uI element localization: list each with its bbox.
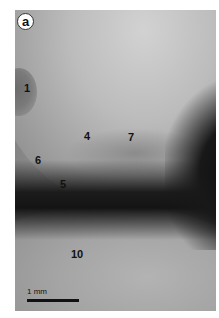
micrograph-panel: a	[15, 10, 216, 311]
structure-label-4: 4	[84, 131, 90, 142]
scale-bar-label: 1 mm	[27, 287, 47, 296]
panel-label-badge: a	[17, 13, 34, 30]
structure-label-6: 6	[35, 155, 41, 166]
structure-label-7: 7	[128, 132, 134, 143]
scale-bar	[27, 299, 79, 302]
structure-label-1: 1	[24, 83, 30, 94]
structure-label-10: 10	[71, 249, 83, 260]
structure-label-5: 5	[60, 179, 66, 190]
dark-right-region	[165, 80, 216, 250]
